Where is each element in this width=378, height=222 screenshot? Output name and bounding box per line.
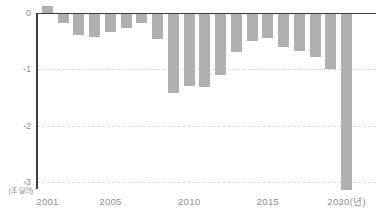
bar-2007 [136, 14, 147, 23]
x-tick-label-2005: 2005 [82, 196, 138, 207]
bar-2020 [341, 14, 352, 190]
bar-2004 [89, 14, 100, 37]
y-axis-unit-label: (조 달러) [0, 187, 33, 195]
gridline [37, 182, 376, 183]
y-tick-label--1: -1 [0, 64, 31, 75]
gridline [37, 126, 376, 127]
bar-2002 [58, 14, 69, 23]
y-axis-line [36, 13, 38, 190]
bar-2008 [152, 14, 163, 40]
bar-2016 [278, 14, 289, 47]
x-tick-label-2015: 2015 [240, 196, 296, 207]
y-tick-label-0: 0 [0, 8, 31, 19]
x-tick-label-2010: 2010 [161, 196, 217, 207]
x-tick-label-2020: 2020(년) [319, 196, 375, 207]
x-tick-label-2001: 2001 [20, 196, 76, 207]
bar-2005 [105, 14, 116, 32]
bar-2015 [262, 14, 273, 39]
bar-2013 [231, 14, 242, 52]
bar-2006 [121, 14, 132, 28]
bar-chart: (조 달러) 0-1-2-320012005201020152020(년) [0, 0, 378, 222]
bar-2019 [325, 14, 336, 69]
bar-2014 [247, 14, 258, 41]
bar-2010 [184, 14, 195, 87]
bar-2017 [294, 14, 305, 52]
bar-2009 [168, 14, 179, 93]
bar-2003 [73, 14, 84, 35]
bar-2018 [310, 14, 321, 58]
x-axis-zero-line [36, 13, 376, 15]
bar-2011 [199, 14, 210, 87]
y-tick-label--3: -3 [0, 177, 31, 188]
y-tick-label--2: -2 [0, 121, 31, 132]
bar-2012 [215, 14, 226, 75]
